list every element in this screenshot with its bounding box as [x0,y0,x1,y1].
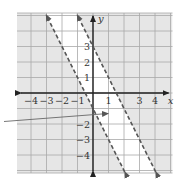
x-axis-label: x [168,95,174,106]
y-tick-label: −4 [76,150,90,161]
x-tick-label: 4 [152,95,158,106]
y-axis-label: y [97,13,104,24]
x-tick-label: −3 [39,95,53,106]
y-tick-label: 2 [84,57,90,68]
x-tick-label: −4 [24,95,38,106]
y-tick-label: −2 [76,119,90,130]
x-tick-label: 1 [105,95,111,106]
x-tick-label: 3 [136,95,142,106]
x-tick-label: −1 [70,95,84,106]
inequality-graph: −4−3−2−1134321−2−3−4xy [0,0,180,181]
x-tick-label: −2 [55,95,69,106]
y-tick-label: 1 [84,72,90,83]
y-tick-label: −3 [76,134,90,145]
y-tick-label: 3 [84,41,90,52]
